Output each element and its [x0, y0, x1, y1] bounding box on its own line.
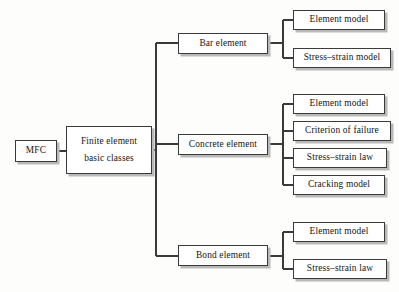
node-bond-element-model-label: Element model [310, 227, 369, 237]
node-basic-label-line2: basic classes [84, 154, 134, 163]
node-mfc[interactable]: MFC [15, 140, 57, 162]
node-finite-element-basic-classes[interactable]: Finite element basic classes [66, 126, 152, 174]
node-bar-stress-strain-model[interactable]: Stress–strain model [293, 48, 391, 68]
node-concrete-element-model-label: Element model [310, 99, 369, 109]
node-bond-stress-strain-law-label: Stress–strain law [307, 264, 373, 274]
node-concrete-criterion-of-failure[interactable]: Criterion of failure [293, 121, 391, 141]
node-bar-stress-strain-model-label: Stress–strain model [304, 53, 381, 63]
node-concrete-element-model[interactable]: Element model [293, 94, 385, 114]
node-basic-label-line1: Finite element [81, 137, 137, 146]
node-bar-element-model-label: Element model [310, 15, 369, 25]
node-bar-element-model[interactable]: Element model [293, 10, 385, 30]
node-concrete-stress-strain-law[interactable]: Stress–strain law [293, 148, 387, 168]
tree-diagram: MFC Finite element basic classes Bar ele… [0, 0, 399, 292]
node-mfc-label: MFC [26, 146, 46, 156]
node-bond-element-model[interactable]: Element model [293, 222, 385, 242]
node-bond-element-label: Bond element [196, 251, 250, 261]
node-bar-element[interactable]: Bar element [178, 33, 268, 54]
node-concrete-element-label: Concrete element [189, 140, 257, 150]
node-bar-element-label: Bar element [199, 39, 246, 49]
node-concrete-criterion-of-failure-label: Criterion of failure [305, 126, 379, 136]
node-concrete-stress-strain-law-label: Stress–strain law [307, 153, 373, 163]
node-bond-stress-strain-law[interactable]: Stress–strain law [293, 259, 387, 279]
node-bond-element[interactable]: Bond element [178, 245, 268, 266]
node-concrete-cracking-model-label: Cracking model [308, 180, 370, 190]
node-concrete-cracking-model[interactable]: Cracking model [293, 175, 385, 195]
node-concrete-element[interactable]: Concrete element [178, 134, 268, 155]
